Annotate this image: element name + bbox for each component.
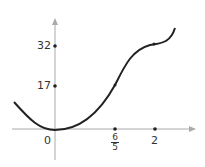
- y-axis-arrow-icon: [52, 18, 58, 25]
- y-tick-32: [53, 44, 57, 48]
- y-label-17: 17: [37, 80, 51, 91]
- x-tick-2: [153, 127, 157, 131]
- y-label-32: 32: [37, 40, 51, 51]
- x-label-6-5: 6 5: [111, 133, 119, 152]
- origin-label: 0: [44, 135, 51, 146]
- y-tick-17: [53, 84, 57, 88]
- x-label-2: 2: [151, 135, 158, 146]
- x-tick-6-5: [113, 127, 117, 131]
- chart-plot: [0, 0, 205, 167]
- fraction-denominator: 5: [111, 143, 119, 152]
- x-axis-arrow-icon: [189, 126, 196, 132]
- point-6-5-17: [114, 84, 117, 87]
- point-2-32: [153, 43, 156, 46]
